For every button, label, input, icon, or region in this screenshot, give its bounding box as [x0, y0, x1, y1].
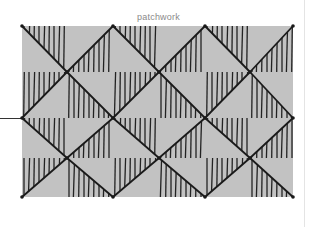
- seam-knot: [203, 116, 207, 120]
- seam-knot: [291, 24, 295, 28]
- seam-knot: [203, 195, 207, 199]
- patchwork-quilt-illustration: [0, 0, 309, 227]
- seam-knot: [20, 116, 24, 120]
- seam-knot: [203, 24, 207, 28]
- seam-knot: [65, 156, 69, 160]
- seam-knot: [291, 116, 295, 120]
- seam-knot: [111, 24, 115, 28]
- seam-knot: [157, 70, 161, 74]
- seam-knot: [65, 70, 69, 74]
- seam-knot: [111, 116, 115, 120]
- seam-knot: [111, 195, 115, 199]
- seam-knot: [157, 156, 161, 160]
- seam-knot: [20, 195, 24, 199]
- seam-knot: [248, 156, 252, 160]
- seam-knot: [248, 70, 252, 74]
- seam-knot: [291, 195, 295, 199]
- seam-knot: [20, 24, 24, 28]
